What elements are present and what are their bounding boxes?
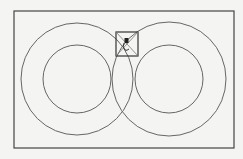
- diagram-canvas: [0, 0, 243, 159]
- center-box: [116, 32, 138, 56]
- right-inner-circle: [135, 45, 203, 113]
- right-outer-circle: [112, 22, 226, 136]
- left-inner-circle: [43, 45, 111, 113]
